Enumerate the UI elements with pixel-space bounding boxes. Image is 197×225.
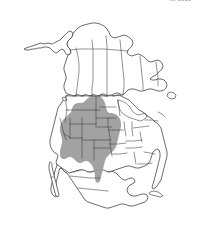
boundary-new-england bbox=[158, 112, 165, 117]
newfoundland-outline bbox=[167, 92, 176, 99]
attribution-label: (c) 2013 bbox=[169, 0, 191, 1]
canada-outline bbox=[64, 23, 167, 96]
alaska-outline bbox=[24, 31, 73, 55]
cuba-outline bbox=[149, 191, 163, 197]
range-map-figure: (c) 2013 bbox=[0, 0, 197, 225]
north-america-map-svg bbox=[0, 0, 197, 225]
